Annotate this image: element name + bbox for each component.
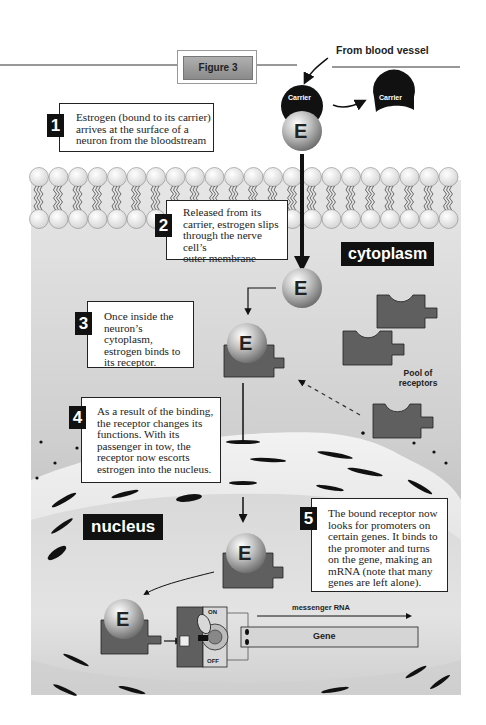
figure-title: Figure 3	[183, 56, 253, 80]
step-3-number: 3	[75, 312, 92, 335]
gene-label: Gene	[313, 631, 336, 641]
source-label: From blood vessel	[336, 44, 429, 56]
incoming-arrow	[305, 58, 328, 82]
estrogen-label-1: E	[294, 120, 307, 143]
cytoplasm-label: cytoplasm	[341, 242, 434, 266]
step-4-number: 4	[69, 406, 86, 429]
step-5-text: The bound receptor now looks for promote…	[328, 508, 447, 589]
step-1-text: Estrogen (bound to its carrier) arrives …	[76, 112, 213, 147]
figure-title-box: Figure 3	[177, 50, 257, 84]
step-2-text: Released from its carrier, estrogen slip…	[183, 207, 287, 265]
step-3-callout: Once inside the neuron’s cytoplasm, estr…	[87, 301, 194, 368]
step-1-callout: Estrogen (bound to its carrier) arrives …	[59, 103, 214, 152]
step-3-text: Once inside the neuron’s cytoplasm, estr…	[104, 311, 193, 369]
carrier-label-released: Carrier	[379, 94, 402, 101]
carrier-label-bound: Carrier	[288, 94, 311, 101]
estrogen-label-3: E	[239, 332, 252, 355]
switch-off-label: OFF	[207, 658, 219, 664]
step-2-number: 2	[155, 214, 172, 237]
estrogen-label-5: E	[116, 608, 129, 631]
step-4-text: As a result of the binding, the receptor…	[97, 406, 220, 475]
release-arrow	[333, 101, 364, 107]
gene-switch	[177, 607, 228, 667]
step-2-callout: Released from its carrier, estrogen slip…	[166, 200, 288, 260]
estrogen-label-2: E	[294, 277, 307, 300]
switch-on-label: ON	[208, 609, 217, 615]
released-carrier	[373, 70, 415, 112]
pool-of-receptors-label: Pool of receptors	[392, 368, 444, 388]
step-4-callout: As a result of the binding, the receptor…	[81, 397, 221, 483]
estrogen-label-4: E	[238, 542, 251, 565]
mrna-label: messenger RNA	[292, 603, 350, 612]
step-1-number: 1	[47, 114, 64, 137]
estrogen-signaling-diagram: Figure 3 From blood vessel Carrier Carri…	[0, 0, 486, 725]
nucleus-label: nucleus	[83, 514, 163, 540]
step-5-number: 5	[300, 507, 317, 530]
step-5-callout: The bound receptor now looks for promote…	[311, 498, 448, 592]
